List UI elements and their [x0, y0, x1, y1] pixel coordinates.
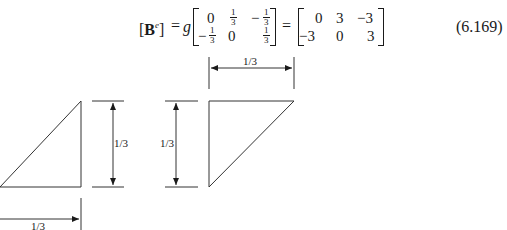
right-width-label: 1/3 [243, 56, 257, 67]
left-height-label: 1/3 [114, 138, 128, 149]
right-triangle [209, 101, 294, 187]
triangle-figures [0, 0, 507, 230]
left-width-label: 1/3 [31, 221, 45, 230]
left-triangle [0, 101, 81, 187]
right-height-label: 1/3 [160, 138, 174, 149]
